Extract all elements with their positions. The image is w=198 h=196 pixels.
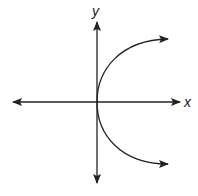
graph: y x [0, 0, 198, 196]
x-axis-label: x [184, 95, 191, 109]
y-axis-label: y [92, 4, 99, 18]
parabola-lower-branch [97, 102, 168, 164]
parabola-upper-branch [97, 39, 168, 102]
graph-svg [0, 0, 198, 196]
